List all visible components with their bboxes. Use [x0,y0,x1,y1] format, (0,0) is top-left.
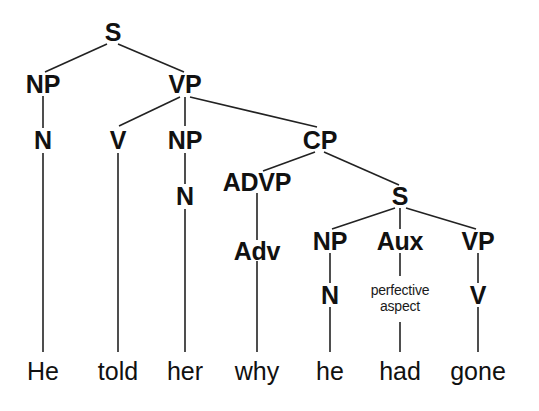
terminal-her: her [167,359,203,384]
terminal-told: told [98,359,138,384]
node-aux-feature: perfective aspect [371,283,430,314]
node-n-embedded: N [321,283,339,308]
aux-feature-line-2: aspect [371,299,430,315]
node-aux: Aux [377,229,424,254]
edge-cp-to-s-embedded [324,152,399,185]
aux-feature-line-1: perfective [371,283,430,299]
terminal-gone: gone [450,359,506,384]
node-s-top: S [105,20,121,45]
syntax-tree-figure: S NP N VP V NP N CP ADVP Adv S NP N Aux … [0,0,539,411]
node-vp-embedded: VP [462,229,495,254]
node-v-embedded: V [470,283,486,308]
node-np-subject: NP [26,72,60,97]
terminal-why: why [235,359,279,384]
edge-s-to-np-subject [45,44,107,72]
terminal-he-embedded: he [316,359,344,384]
node-v-main: V [110,128,126,153]
node-np-embedded: NP [313,229,347,254]
node-adv: Adv [234,239,281,264]
node-s-embedded: S [392,184,408,209]
node-advp: ADVP [223,170,292,195]
edge-vp-to-v [119,97,180,126]
edge-s-to-vp-main [118,44,184,72]
node-n-subject: N [34,128,52,153]
node-cp: CP [303,128,337,153]
node-n-object: N [176,184,194,209]
node-np-object: NP [168,128,202,153]
terminal-had: had [379,359,421,384]
tree-edges [0,0,539,411]
node-vp-main: VP [169,72,202,97]
terminal-he-subject: He [27,359,59,384]
edge-vp-to-cp [190,97,317,127]
